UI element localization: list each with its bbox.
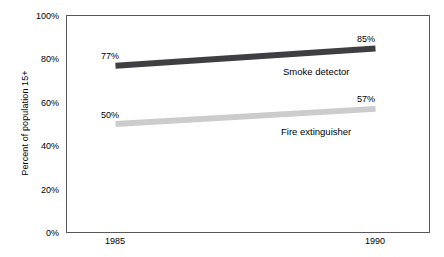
y-tick-label-40: 40%: [28, 141, 59, 151]
series-line-smoke-detector: [116, 48, 376, 65]
plot-area: [66, 15, 430, 233]
data-label-smoke-1985: 77%: [101, 51, 119, 62]
y-tick-label-80: 80%: [28, 54, 59, 64]
line-chart: Percent of population 15+ 100% 80% 60% 4…: [0, 0, 444, 257]
series-lines: [67, 16, 429, 232]
x-tick-label-1990: 1990: [358, 236, 392, 247]
series-label-smoke-detector: Smoke detector: [283, 66, 350, 78]
data-label-fire-1990: 57%: [357, 94, 375, 105]
data-label-fire-1985: 50%: [101, 110, 119, 121]
x-tick-label-1985: 1985: [98, 236, 132, 247]
series-line-fire-extinguisher: [116, 109, 376, 124]
y-tick-label-100: 100%: [28, 11, 59, 21]
series-label-fire-extinguisher: Fire extinguisher: [281, 126, 351, 138]
y-tick-label-20: 20%: [28, 185, 59, 195]
data-label-smoke-1990: 85%: [357, 34, 375, 45]
y-tick-label-0: 0%: [28, 228, 59, 238]
y-axis-tick-labels: 100% 80% 60% 40% 20% 0%: [28, 0, 59, 257]
y-tick-label-60: 60%: [28, 98, 59, 108]
